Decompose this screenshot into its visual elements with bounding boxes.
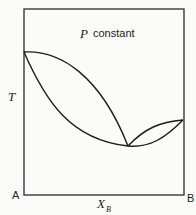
component-a-label: A: [12, 189, 20, 201]
title-variable: P: [79, 26, 88, 41]
phase-diagram: P constant T X B A B: [0, 0, 196, 215]
right-lens-upper-curve: [128, 120, 183, 146]
title-text: constant: [93, 27, 135, 39]
upper-dome-curve: [24, 52, 128, 146]
x-axis-label: X: [96, 196, 106, 211]
component-b-label: B: [187, 192, 194, 204]
y-axis-label: T: [8, 89, 16, 104]
x-axis-label-subscript: B: [106, 205, 111, 214]
